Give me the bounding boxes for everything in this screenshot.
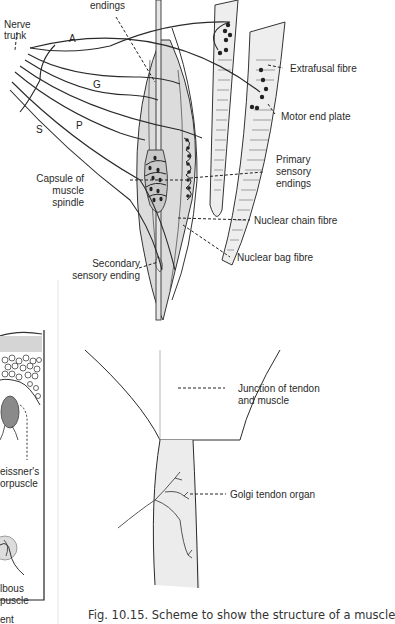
label-nerve-g: G (93, 79, 101, 90)
label-capsule-3: spindle (52, 197, 84, 208)
skin-receptor-inset (0, 280, 58, 624)
label-junction-1: Junction of tendon (238, 383, 320, 394)
label-capsule-2: muscle (52, 185, 84, 196)
label-meissner-1: eissner's (0, 466, 39, 477)
label-secondary-2: sensory ending (72, 270, 140, 281)
label-nerve-a: A (69, 33, 76, 44)
label-junction-2: and muscle (238, 395, 289, 406)
label-primary-1: Primary (276, 154, 310, 165)
label-bulbous-2: puscle (0, 595, 29, 606)
label-secondary-1: Secondary (92, 258, 140, 269)
figure-caption: Fig. 10.15. Scheme to show the structure… (88, 608, 395, 622)
label-golgi-tendon-organ: Golgi tendon organ (230, 489, 315, 500)
label-endings: endings (90, 0, 125, 11)
label-motor-end-plate: Motor end plate (281, 111, 351, 122)
label-meissner-2: orpuscle (0, 478, 38, 489)
label-cut-text: ent (0, 614, 14, 624)
muscle-spindle (137, 0, 197, 320)
label-nuclear-bag-fibre: Nuclear bag fibre (237, 252, 313, 263)
label-nerve-trunk-2: trunk (4, 30, 26, 41)
label-nerve-p: P (76, 120, 83, 131)
label-primary-3: endings (276, 178, 311, 189)
label-nuclear-chain-fibre: Nuclear chain fibre (254, 215, 337, 226)
label-bulbous-1: lbous (0, 583, 24, 594)
label-nerve-s: S (36, 124, 43, 135)
label-extrafusal-fibre: Extrafusal fibre (290, 63, 357, 74)
label-primary-2: sensory (276, 166, 311, 177)
label-nerve-trunk-1: Nerve (4, 19, 31, 30)
label-capsule-1: Capsule of (36, 173, 84, 184)
